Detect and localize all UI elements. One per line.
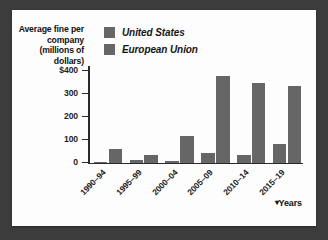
bar-united-states: [273, 144, 287, 163]
bar-european-union: [252, 83, 266, 163]
bar-united-states: [94, 162, 108, 163]
caret-icon: ▾: [275, 198, 279, 207]
x-axis-tick-label: 2015–19: [257, 167, 287, 197]
y-axis-tick-label: 0: [18, 157, 78, 167]
bar-group: [237, 66, 265, 163]
y-axis-tick-label: 100: [18, 134, 78, 144]
y-axis-tick-label: $400: [18, 65, 78, 75]
plot-area: 0100200300$400 1990–941995–992000–042005…: [12, 10, 316, 226]
bar-group: [201, 66, 229, 163]
bar-group-container: [88, 66, 303, 163]
x-axis-title: ▾Years: [275, 198, 302, 208]
x-axis-tick-label: 2010–14: [221, 167, 251, 197]
y-axis-tick-label: 300: [18, 88, 78, 98]
bar-european-union: [216, 76, 230, 162]
x-axis-line: [88, 163, 303, 165]
x-axis-title-text: Years: [278, 198, 302, 208]
y-axis-tick-label: 200: [18, 111, 78, 121]
bar-united-states: [130, 160, 144, 163]
bar-united-states: [201, 153, 215, 163]
x-axis-tick-label: 2000–04: [150, 167, 180, 197]
x-axis-tick-label: 1995–99: [114, 167, 144, 197]
chart-screenshot: Average fine per company (millions of do…: [0, 0, 328, 240]
bar-united-states: [165, 161, 179, 163]
bar-european-union: [288, 86, 302, 163]
x-tick-label-group: 1990–941995–992000–042005–092010–142015–…: [88, 166, 303, 216]
x-axis-tick-label: 1990–94: [78, 167, 108, 197]
bar-european-union: [144, 155, 158, 163]
bar-european-union: [180, 136, 194, 162]
bar-group: [130, 66, 158, 163]
bar-united-states: [237, 155, 251, 163]
bar-group: [273, 66, 301, 163]
bar-european-union: [109, 149, 123, 163]
bar-group: [94, 66, 122, 163]
figure-card: Average fine per company (millions of do…: [12, 10, 316, 226]
x-axis-tick-label: 2005–09: [185, 167, 215, 197]
bar-group: [165, 66, 193, 163]
